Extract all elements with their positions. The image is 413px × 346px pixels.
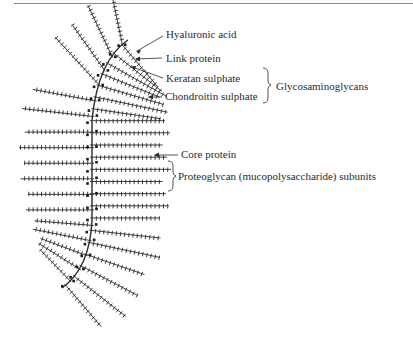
- proteoglycan-brace: [168, 161, 176, 191]
- label-keratan-sulphate: Keratan sulphate: [166, 72, 240, 84]
- label-glycosaminoglycans: Glycosaminoglycans: [276, 80, 368, 92]
- glycosaminoglycans-brace: [263, 68, 271, 103]
- label-chondroitin-sulphate: Chondroitin sulphate: [165, 90, 258, 102]
- hyaluronic-leader: [137, 36, 163, 51]
- label-link-protein: Link protein: [166, 52, 221, 64]
- label-core-protein: Core protein: [181, 148, 237, 160]
- proteoglycan-subunits: [19, 0, 171, 327]
- label-hyaluronic-acid: Hyaluronic acid: [166, 28, 237, 40]
- label-proteoglycan-subunits: Proteoglycan (mucopolysaccharide) subuni…: [178, 170, 376, 183]
- proteoglycan-aggregate-figure: Hyaluronic acid Link protein Keratan sul…: [0, 0, 413, 346]
- aggregate-diagram: Hyaluronic acid Link protein Keratan sul…: [0, 0, 413, 346]
- top-rule-divider: [14, 3, 413, 4]
